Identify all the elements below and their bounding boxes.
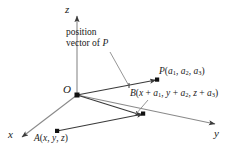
z-axis-label: z (65, 3, 69, 16)
point-p-dot (155, 78, 159, 82)
diagram-canvas (0, 0, 241, 153)
y-axis (77, 95, 215, 124)
origin-dot (75, 93, 80, 98)
point-a-paren-close: ) (65, 133, 68, 143)
origin-label: O (63, 83, 71, 96)
annotation-line-2-prefix: vector of (66, 38, 102, 48)
point-b-dot (141, 112, 145, 116)
vector-addition-diagram: z y x O position vector of P P(a1, a2, a… (0, 0, 241, 153)
point-p-label: P(a1, a2, a3) (159, 66, 205, 77)
point-p-paren-close: ) (201, 66, 204, 76)
annotation-line-2: vector of P (66, 38, 108, 49)
x-axis-label: x (8, 128, 13, 141)
point-b-t1-op: + (143, 88, 153, 98)
point-b-paren-close: ) (215, 88, 218, 98)
x-axis (22, 95, 77, 137)
annotation-line-1: position (66, 27, 108, 38)
vector-ab (57, 114, 143, 131)
position-vector-annotation: position vector of P (66, 27, 108, 49)
y-axis-label: y (214, 127, 219, 140)
point-b-label: B(x + a1, y + a2, z + a3) (130, 88, 218, 99)
point-b-t3-op: + (197, 88, 207, 98)
point-b-t2-op: + (170, 88, 180, 98)
point-a-label: A(x, y, z) (34, 133, 68, 144)
annotation-line-2-italic: P (102, 38, 108, 48)
annotation-leader-line (110, 52, 129, 86)
